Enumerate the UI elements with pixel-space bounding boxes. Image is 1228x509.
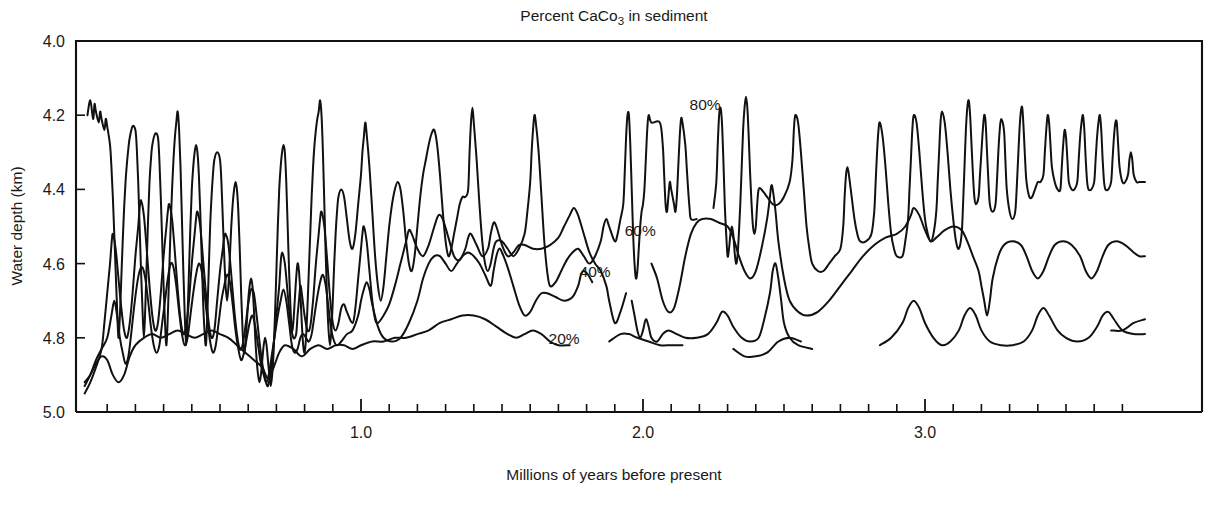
curve-segment bbox=[632, 263, 812, 349]
y-tick-label: 5.0 bbox=[43, 404, 65, 421]
curve-60pct bbox=[85, 185, 1145, 393]
y-tick-labels: 4.04.24.44.64.85.0 bbox=[43, 33, 65, 421]
x-tick-label: 1.0 bbox=[350, 424, 372, 441]
curve-80pct bbox=[87, 97, 1145, 386]
curve-segment bbox=[85, 249, 593, 386]
curve-segment bbox=[880, 301, 1145, 346]
figure-container: Percent CaCo3 in sediment Water depth (k… bbox=[0, 0, 1228, 509]
chart-title-group: Percent CaCo3 in sediment bbox=[520, 7, 708, 27]
x-tick-label: 3.0 bbox=[914, 424, 936, 441]
curve-annotations-layer: 20%40%60%80% bbox=[549, 96, 721, 347]
chart-title: Percent CaCo3 in sediment bbox=[520, 7, 708, 27]
y-tick-label: 4.4 bbox=[43, 181, 65, 198]
curve-label-80pct: 80% bbox=[690, 96, 721, 113]
curve-label-60pct: 60% bbox=[625, 222, 656, 239]
y-tick-label: 4.0 bbox=[43, 33, 65, 50]
x-axis-title: Millions of years before present bbox=[506, 466, 722, 483]
data-curves-layer bbox=[85, 97, 1145, 394]
curve-label-20pct: 20% bbox=[549, 330, 580, 347]
y-axis-title-group: Water depth (km) bbox=[8, 166, 25, 285]
curve-segment bbox=[87, 100, 696, 386]
curve-segment bbox=[609, 333, 682, 345]
y-tick-label: 4.8 bbox=[43, 330, 65, 347]
y-tick-label: 4.2 bbox=[43, 107, 65, 124]
caco3-sediment-chart: Percent CaCo3 in sediment Water depth (k… bbox=[0, 0, 1228, 509]
curve-label-40pct: 40% bbox=[580, 263, 611, 280]
x-tick-labels: 1.02.03.0 bbox=[350, 424, 936, 441]
y-tick-label: 4.6 bbox=[43, 256, 65, 273]
y-axis-title: Water depth (km) bbox=[8, 166, 25, 285]
x-tick-label: 2.0 bbox=[632, 424, 654, 441]
x-axis-title-group: Millions of years before present bbox=[506, 466, 722, 483]
curve-40pct bbox=[85, 249, 1145, 386]
